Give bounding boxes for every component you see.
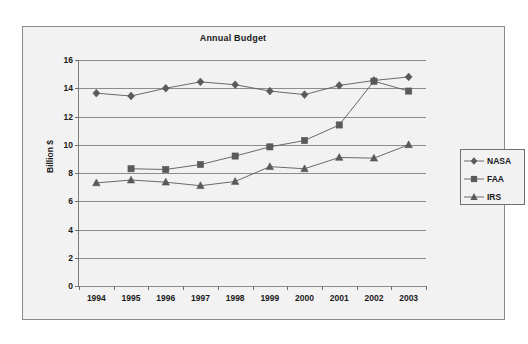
legend-item-irs[interactable]: IRS <box>461 188 526 206</box>
data-point-marker <box>197 78 204 86</box>
data-point-marker <box>162 84 169 92</box>
data-point-marker <box>371 78 377 84</box>
x-tick-mark <box>253 286 254 290</box>
x-tick-mark <box>426 286 427 290</box>
y-tick-label: 14 <box>64 83 73 93</box>
y-axis-title: Billion $ <box>45 140 55 173</box>
x-tick-label: 1994 <box>87 293 106 303</box>
data-point-marker <box>127 176 134 183</box>
legend-item-nasa[interactable]: NASA <box>461 152 526 170</box>
x-tick-label: 1995 <box>122 293 141 303</box>
square-icon <box>461 171 487 187</box>
x-tick-label: 2002 <box>364 293 383 303</box>
y-tick-label: 4 <box>68 225 73 235</box>
data-point-marker <box>301 137 307 143</box>
triangle-icon <box>461 189 487 205</box>
plot-area: 0246810121416 19941995199619971998199920… <box>78 60 426 287</box>
x-tick-mark <box>322 286 323 290</box>
data-point-marker <box>266 163 273 170</box>
x-tick-mark <box>79 286 80 290</box>
x-tick-mark <box>114 286 115 290</box>
legend-label: FAA <box>487 174 504 184</box>
x-tick-label: 2000 <box>295 293 314 303</box>
x-tick-label: 2001 <box>330 293 349 303</box>
chart-screenshot: Annual Budget Billion $ 0246810121416 19… <box>0 0 528 344</box>
series-irs <box>93 141 413 189</box>
series-layer <box>79 60 426 286</box>
y-tick-label: 8 <box>68 168 73 178</box>
chart-title: Annual Budget <box>23 33 443 43</box>
data-point-marker <box>266 87 273 95</box>
series-line <box>96 77 408 96</box>
x-tick-mark <box>287 286 288 290</box>
data-point-marker <box>336 82 343 90</box>
data-point-marker <box>232 153 238 159</box>
data-point-marker <box>93 89 100 97</box>
legend-label: IRS <box>487 192 501 202</box>
data-point-marker <box>336 122 342 128</box>
y-tick-label: 16 <box>64 55 73 65</box>
y-tick-label: 10 <box>64 140 73 150</box>
data-point-marker <box>267 144 273 150</box>
data-point-marker <box>232 81 239 89</box>
legend-label: NASA <box>487 156 511 166</box>
chart-frame: Annual Budget Billion $ 0246810121416 19… <box>22 26 505 320</box>
x-tick-label: 1999 <box>260 293 279 303</box>
data-point-marker <box>163 166 169 172</box>
series-line <box>96 145 408 186</box>
x-tick-mark <box>218 286 219 290</box>
x-tick-mark <box>391 286 392 290</box>
data-point-marker <box>336 154 343 161</box>
x-tick-mark <box>183 286 184 290</box>
y-tick-label: 6 <box>68 196 73 206</box>
legend-item-faa[interactable]: FAA <box>461 170 526 188</box>
data-point-marker <box>128 166 134 172</box>
x-tick-label: 1997 <box>191 293 210 303</box>
x-tick-mark <box>148 286 149 290</box>
data-point-marker <box>231 178 238 185</box>
series-nasa <box>93 73 412 100</box>
data-point-marker <box>128 92 135 100</box>
chart-legend: NASAFAAIRS <box>460 149 525 205</box>
x-tick-label: 1998 <box>226 293 245 303</box>
y-tick-label: 0 <box>68 281 73 291</box>
data-point-marker <box>301 91 308 99</box>
diamond-icon <box>461 153 487 169</box>
data-point-marker <box>197 161 203 167</box>
x-tick-label: 1996 <box>156 293 175 303</box>
y-tick-label: 2 <box>68 253 73 263</box>
data-point-marker <box>406 88 412 94</box>
y-tick-label: 12 <box>64 112 73 122</box>
x-tick-mark <box>357 286 358 290</box>
data-point-marker <box>405 141 412 148</box>
x-tick-label: 2003 <box>399 293 418 303</box>
data-point-marker <box>405 73 412 81</box>
